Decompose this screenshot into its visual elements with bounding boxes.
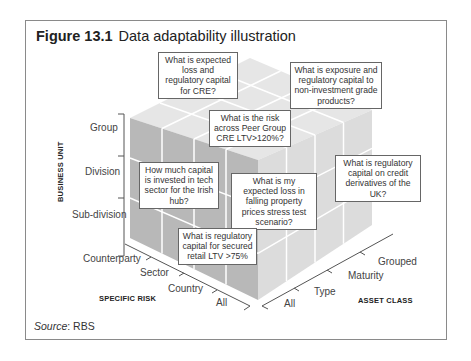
callout-credit-derivatives: What is regulatory capital on credit der… <box>335 155 421 202</box>
business-unit-title: BUSINESS UNIT <box>56 141 65 202</box>
callout-non-investment-grade: What is exposure and regulatory capital … <box>290 62 382 109</box>
source-value: : RBS <box>67 320 94 332</box>
source-label: Source <box>34 320 67 332</box>
asset-class-grouped: Grouped <box>378 256 417 267</box>
asset-class-tick <box>294 288 299 291</box>
callout-cre-expected-loss: What is expected loss and regulatory cap… <box>158 52 238 99</box>
business-unit-group: Group <box>90 122 118 133</box>
callout-secured-retail-ltv: What is regulatory capital for secured r… <box>178 228 257 265</box>
specific-risk-sector: Sector <box>140 267 169 278</box>
business-unit-division: Division <box>85 166 120 177</box>
specific-risk-tick <box>146 257 151 260</box>
specific-risk-counterparty: Counterparty <box>83 253 141 264</box>
specific-risk-title: SPECIFIC RISK <box>99 294 156 303</box>
asset-class-type: Type <box>314 286 336 297</box>
source-note: Source: RBS <box>34 320 95 332</box>
business-unit-axis <box>118 114 124 256</box>
callout-tech-sector-capital: How much capital is invested in tech sec… <box>139 162 219 209</box>
specific-risk-tick <box>212 290 217 293</box>
business-unit-subdivision: Sub-division <box>72 209 126 220</box>
asset-class-tick <box>360 252 365 255</box>
asset-class-all: All <box>284 298 295 309</box>
asset-class-title: ASSET CLASS <box>358 296 413 305</box>
specific-risk-country: Country <box>168 283 203 294</box>
specific-risk-tick <box>179 273 184 276</box>
callout-stress-test-loss: What is my expected loss in falling prop… <box>231 173 317 230</box>
callout-peer-group-risk: What is the risk across Peer Group CRE L… <box>209 110 291 147</box>
asset-class-tick <box>327 270 332 273</box>
specific-risk-all: All <box>216 297 227 308</box>
asset-class-maturity: Maturity <box>348 270 384 281</box>
